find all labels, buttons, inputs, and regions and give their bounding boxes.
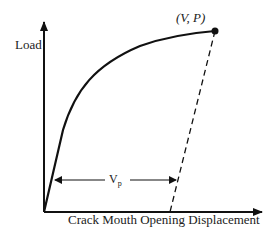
unloading-line (170, 31, 215, 212)
vp-main: V (109, 172, 118, 186)
peak-point-label: (V, P) (176, 10, 205, 26)
x-axis-label: Crack Mouth Opening Displacement (68, 212, 260, 228)
y-axis-label: Load (15, 37, 42, 53)
load-curve (44, 31, 215, 212)
plastic-displacement-label: Vp (107, 172, 124, 188)
vp-sub: p (118, 179, 122, 188)
load-cmod-diagram (0, 0, 277, 235)
